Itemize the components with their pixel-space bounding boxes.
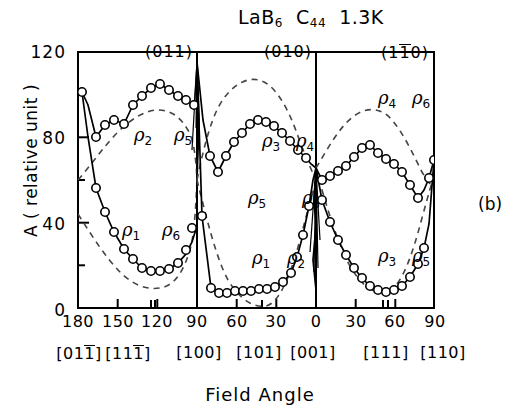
curve-label-rho5-right: ρ5 xyxy=(412,247,430,268)
x-tick-label-30-a: 30 xyxy=(254,314,298,330)
x-axis-title: Field Angle xyxy=(150,386,370,404)
curve-label-rho5-mid-right: ρ5 xyxy=(302,189,320,210)
curve-label-rho2: ρ2 xyxy=(134,126,152,147)
x-tick-label-60-a: 60 xyxy=(215,314,259,330)
curve-label-rho4-right: ρ4 xyxy=(378,89,396,110)
curve-label-rho3-mid: ρ3 xyxy=(262,132,280,153)
x-tick-label-180: 180 xyxy=(56,314,100,330)
curve-label-rho4-mid: ρ4 xyxy=(296,132,314,153)
x-tick-label-0: 0 xyxy=(294,314,338,330)
x-tick-label-30-b: 30 xyxy=(334,314,378,330)
curve-label-rho5-mid-left: ρ5 xyxy=(248,189,266,210)
figure-root: LaB6 C44 1.3K A ( relative unit ) 120 80… xyxy=(0,0,521,416)
x-tick-label-120: 120 xyxy=(135,314,179,330)
curve-label-rho6-right: ρ6 xyxy=(412,89,430,110)
x-tick-label-90-a: 90 xyxy=(175,314,219,330)
curve-label-rho5-left: ρ5 xyxy=(174,126,192,147)
marker-right-edge xyxy=(430,156,438,164)
curve-label-rho1-left: ρ1 xyxy=(122,221,140,242)
figure-panel-tag: (b) xyxy=(478,196,502,213)
direction-label-110: [110] xyxy=(408,345,478,361)
x-tick-label-90-b: 90 xyxy=(413,314,457,330)
y-axis-ticks xyxy=(78,95,89,266)
markers-rho1-rho6 xyxy=(92,184,196,275)
direction-label-001: [001] xyxy=(278,345,348,361)
curve-label-rho6: ρ6 xyxy=(162,221,180,242)
curve-label-rho1-mid: ρ1 xyxy=(252,249,270,270)
curve-label-rho2-mid: ρ2 xyxy=(287,249,305,270)
curve-label-rho3-right: ρ3 xyxy=(378,247,396,268)
x-tick-label-60-b: 60 xyxy=(373,314,417,330)
x-tick-label-150: 150 xyxy=(96,314,140,330)
x-axis-ticks xyxy=(118,299,396,308)
direction-label-111bar: [111] xyxy=(93,345,163,362)
